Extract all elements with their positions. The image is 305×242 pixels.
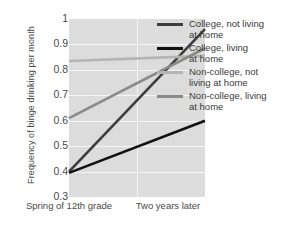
y-axis-tick-label: 0.4: [28, 165, 68, 177]
legend-label: College, living at home: [189, 42, 248, 64]
y-axis-tick-label: 1: [28, 12, 68, 24]
x-axis-tick-label-0: Spring of 12th grade: [18, 200, 120, 212]
legend: College, not living at homeCollege, livi…: [157, 18, 305, 114]
legend-swatch: [157, 23, 183, 26]
y-axis-tick-label: 0.6: [28, 114, 68, 126]
legend-label: College, not living at home: [189, 18, 264, 40]
legend-item[interactable]: Non-college, living at home: [157, 90, 305, 112]
y-axis-tick-label: 0.5: [28, 139, 68, 151]
y-axis-tick-label: 0.8: [28, 63, 68, 75]
legend-label: Non-college, living at home: [189, 90, 267, 112]
legend-swatch: [157, 47, 183, 50]
legend-swatch: [157, 71, 183, 74]
y-axis-tick-label: 0.9: [28, 37, 68, 49]
line-chart-figure: Frequency of binge drinking per month 10…: [0, 0, 305, 242]
legend-item[interactable]: College, not living at home: [157, 18, 305, 40]
series-line: [69, 121, 205, 173]
legend-item[interactable]: College, living at home: [157, 42, 305, 64]
legend-label: Non-college, not living at home: [189, 66, 258, 88]
y-axis-tick-label: 0.7: [28, 88, 68, 100]
x-axis-tick-label-1: Two years later: [108, 200, 228, 212]
legend-swatch: [157, 95, 183, 98]
legend-item[interactable]: Non-college, not living at home: [157, 66, 305, 88]
